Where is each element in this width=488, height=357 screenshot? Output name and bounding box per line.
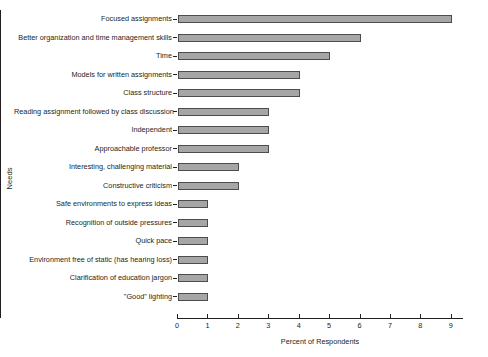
y-tick xyxy=(173,241,177,242)
category-label: Safe environments to express ideas xyxy=(14,195,172,214)
bar-row: Constructive criticism xyxy=(0,177,488,196)
category-label: Models for written assignments xyxy=(14,66,172,85)
bar xyxy=(178,126,269,134)
y-tick xyxy=(173,204,177,205)
x-tick xyxy=(268,314,269,319)
x-tick-label: 8 xyxy=(408,321,432,330)
bar xyxy=(178,200,208,208)
x-tick-label: 9 xyxy=(439,321,463,330)
x-tick xyxy=(420,314,421,319)
x-tick-label: 4 xyxy=(287,321,311,330)
bar-row: Interesting, challenging material xyxy=(0,158,488,177)
bar-row: Safe environments to express ideas xyxy=(0,195,488,214)
bar-row: Approachable professor xyxy=(0,140,488,159)
x-tick xyxy=(238,314,239,319)
y-tick xyxy=(173,296,177,297)
category-label: "Good" lighting xyxy=(14,288,172,307)
x-tick xyxy=(207,314,208,319)
bar-row: "Good" lighting xyxy=(0,288,488,307)
y-tick xyxy=(173,19,177,20)
category-label: Interesting, challenging material xyxy=(14,158,172,177)
x-tick xyxy=(299,314,300,319)
bar xyxy=(178,71,300,79)
bar-row: Class structure xyxy=(0,84,488,103)
category-label: Better organization and time management … xyxy=(14,29,172,48)
x-axis-title: Percent of Respondents xyxy=(177,337,463,346)
bar xyxy=(178,256,208,264)
y-tick xyxy=(173,74,177,75)
x-tick-label: 7 xyxy=(378,321,402,330)
category-label: Clarification of education jargon xyxy=(14,269,172,288)
category-label: Environment free of static (has hearing … xyxy=(14,251,172,270)
category-label: Time xyxy=(14,47,172,66)
bar xyxy=(178,145,269,153)
x-tick xyxy=(360,314,361,319)
category-label: Reading assignment followed by class dis… xyxy=(14,103,172,122)
y-tick xyxy=(173,111,177,112)
y-tick xyxy=(173,130,177,131)
category-label: Independent xyxy=(14,121,172,140)
bar xyxy=(178,108,269,116)
category-label: Recognition of outside pressures xyxy=(14,214,172,233)
bar-row: Quick pace xyxy=(0,232,488,251)
x-tick xyxy=(390,314,391,319)
bar xyxy=(178,274,208,282)
y-tick xyxy=(173,37,177,38)
x-tick xyxy=(177,314,178,319)
bar-row: Environment free of static (has hearing … xyxy=(0,251,488,270)
bar-row: Clarification of education jargon xyxy=(0,269,488,288)
y-tick xyxy=(173,56,177,57)
category-label: Constructive criticism xyxy=(14,177,172,196)
y-tick xyxy=(173,259,177,260)
bar xyxy=(178,34,361,42)
category-label: Quick pace xyxy=(14,232,172,251)
bar-row: Time xyxy=(0,47,488,66)
bar xyxy=(178,293,208,301)
x-tick-label: 3 xyxy=(256,321,280,330)
bar xyxy=(178,15,452,23)
y-tick xyxy=(173,167,177,168)
bar xyxy=(178,89,300,97)
bar-chart: Needs Focused assignmentsBetter organiza… xyxy=(0,0,488,357)
bar-row: Independent xyxy=(0,121,488,140)
x-tick-label: 6 xyxy=(348,321,372,330)
x-tick-label: 0 xyxy=(165,321,189,330)
bar xyxy=(178,52,330,60)
y-tick xyxy=(173,185,177,186)
bar-row: Focused assignments xyxy=(0,10,488,29)
y-tick xyxy=(173,148,177,149)
bar xyxy=(178,237,208,245)
bar-row: Recognition of outside pressures xyxy=(0,214,488,233)
x-tick-label: 1 xyxy=(195,321,219,330)
x-tick xyxy=(329,314,330,319)
category-label: Focused assignments xyxy=(14,10,172,29)
x-tick-label: 2 xyxy=(226,321,250,330)
bar-row: Models for written assignments xyxy=(0,66,488,85)
y-tick xyxy=(173,222,177,223)
bar xyxy=(178,182,239,190)
bar xyxy=(178,163,239,171)
bar-row: Reading assignment followed by class dis… xyxy=(0,103,488,122)
y-tick xyxy=(173,93,177,94)
bar-row: Better organization and time management … xyxy=(0,29,488,48)
x-tick xyxy=(451,314,452,319)
x-tick-label: 5 xyxy=(317,321,341,330)
y-tick xyxy=(173,278,177,279)
bar xyxy=(178,219,208,227)
category-label: Class structure xyxy=(14,84,172,103)
category-label: Approachable professor xyxy=(14,140,172,159)
